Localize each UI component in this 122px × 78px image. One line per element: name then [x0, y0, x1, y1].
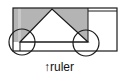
gray-region-light-band	[18, 8, 21, 42]
ruler-text: ruler	[50, 60, 74, 74]
ruler-label: ↑ruler	[44, 60, 74, 74]
